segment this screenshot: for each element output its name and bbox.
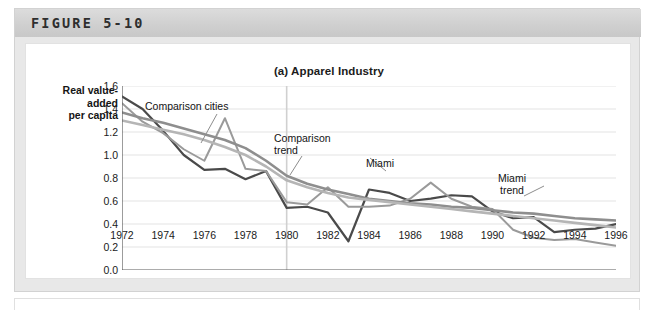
y-tick-label: 1.2 bbox=[92, 127, 118, 137]
y-tick-label: 0.6 bbox=[92, 196, 118, 206]
figure-frame: FIGURE 5-10 (a) Apparel Industry Real va… bbox=[14, 8, 640, 292]
y-tick-label: 1.6 bbox=[92, 81, 118, 91]
figure-number-band: FIGURE 5-10 bbox=[15, 9, 641, 37]
figure-panel: (a) Apparel Industry Real value- added p… bbox=[25, 43, 631, 279]
y-axis-tick-labels: 0.00.20.40.60.81.01.21.41.6 bbox=[88, 86, 118, 270]
x-axis-tick-labels: 1972197419761978198019821984198619881990… bbox=[122, 229, 622, 249]
x-tick-label: 1972 bbox=[102, 229, 142, 241]
y-tick-label: 0.2 bbox=[92, 242, 118, 252]
annotation-comparison-trend: Comparison trend bbox=[274, 132, 331, 156]
x-tick-label: 1978 bbox=[226, 229, 266, 241]
y-tick-label: 0.0 bbox=[92, 265, 118, 275]
annotation-comparison-cities: Comparison cities bbox=[145, 100, 228, 112]
x-tick-label: 1984 bbox=[349, 229, 389, 241]
panel-title: (a) Apparel Industry bbox=[26, 65, 632, 77]
next-figure-panel bbox=[14, 298, 640, 310]
figure-number-label: FIGURE 5-10 bbox=[31, 15, 145, 31]
x-tick-label: 1976 bbox=[184, 229, 224, 241]
x-tick-label: 1996 bbox=[596, 229, 636, 241]
y-tick-label: 0.8 bbox=[92, 173, 118, 183]
x-tick-label: 1974 bbox=[143, 229, 183, 241]
annotation-miami-trend: Miami trend bbox=[498, 172, 526, 196]
y-tick-label: 0.4 bbox=[92, 219, 118, 229]
x-tick-label: 1990 bbox=[473, 229, 513, 241]
x-tick-label: 1982 bbox=[308, 229, 348, 241]
x-tick-label: 1980 bbox=[267, 229, 307, 241]
x-tick-label: 1994 bbox=[555, 229, 595, 241]
y-tick-label: 1.4 bbox=[92, 104, 118, 114]
series-line-comparison-trend bbox=[122, 121, 616, 228]
y-tick-label: 1.0 bbox=[92, 150, 118, 160]
x-tick-label: 1986 bbox=[390, 229, 430, 241]
annotation-leader-line bbox=[524, 186, 544, 196]
x-tick-label: 1992 bbox=[514, 229, 554, 241]
annotation-miami: Miami bbox=[366, 157, 394, 169]
annotation-leader-line bbox=[290, 156, 302, 175]
x-tick-label: 1988 bbox=[431, 229, 471, 241]
